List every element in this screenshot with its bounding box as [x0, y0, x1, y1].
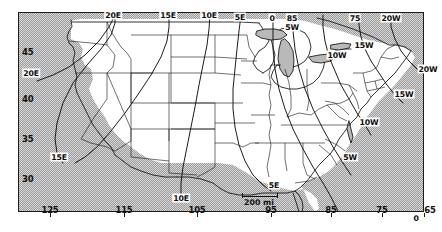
isoline-label-15E-southwest: 15E: [50, 153, 68, 162]
isoline-label-15E-top: 15E: [159, 11, 177, 20]
scale-bar-cap-left: [242, 193, 243, 198]
lon-top-85: 85: [286, 14, 298, 23]
axis-tick: [331, 213, 332, 217]
axis-tick: [271, 213, 272, 217]
isoline-label-15W-east: 15W: [394, 90, 415, 99]
isoline-label-15W-northeast: 15W: [354, 41, 375, 50]
lon-top-75: 75: [349, 14, 361, 23]
axis-tick: [124, 213, 125, 217]
isoline-label-10W-northeast: 10W: [327, 51, 348, 60]
lat-tick-30: 30: [22, 174, 33, 184]
lat-tick-35: 35: [22, 134, 33, 144]
map-figure: 45 40 35 30 125 115 105 95 85 75 65 0 85…: [0, 0, 442, 232]
isoline-label-20E-west: 20E: [22, 69, 40, 78]
isoline-label-5W-atlantic: 5W: [342, 153, 358, 162]
lon-tick-65: 65: [424, 205, 435, 215]
isoline-label-10W-atlantic: 10W: [359, 118, 380, 127]
isoline-label-20W-east: 20W: [418, 65, 439, 74]
isoline-label-5E-top: 5E: [234, 13, 246, 22]
lat-tick-45: 45: [22, 47, 33, 57]
isoline-label-20E-top: 20E: [104, 11, 122, 20]
scale-bar: [242, 196, 277, 197]
isoline-label-10E-top: 10E: [200, 11, 218, 20]
axis-tick: [382, 213, 383, 217]
axis-tick: [197, 213, 198, 217]
isoline-label-5W-top: 5W: [284, 23, 300, 32]
isoline-label-10E-south: 10E: [172, 194, 190, 203]
lon-bottom-0: 0: [412, 214, 419, 223]
scale-bar-label: 200 mi: [244, 198, 274, 207]
axis-tick: [424, 213, 425, 217]
lon-top-0: 0: [268, 14, 275, 23]
isoline-label-5E-gulf: 5E: [268, 181, 280, 190]
isoline-label-20W-top: 20W: [381, 14, 402, 23]
axis-tick: [50, 213, 51, 217]
scale-bar-cap-right: [277, 193, 278, 198]
lat-tick-40: 40: [22, 94, 33, 104]
